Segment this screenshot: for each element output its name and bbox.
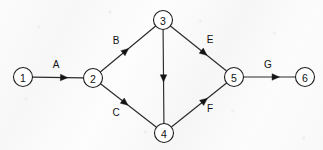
node-label: 5 (231, 72, 237, 84)
edge-line (32, 77, 83, 78)
graph-node-6[interactable]: 6 (296, 68, 315, 87)
edge-arrowhead-icon (199, 48, 207, 55)
edge-label: C (112, 107, 119, 118)
node-label: 6 (302, 72, 308, 84)
edge-arrowhead-icon (120, 98, 128, 105)
edge-label: A (53, 59, 60, 70)
edge-arrowhead-icon (160, 75, 167, 82)
graph-node-3[interactable]: 3 (154, 11, 173, 30)
edge-label: G (264, 59, 272, 70)
edge-arrowhead-icon (60, 74, 67, 81)
edge-label: B (113, 35, 120, 46)
edge-label: E (207, 34, 214, 45)
graph-node-4[interactable]: 4 (155, 124, 174, 143)
edge-label: F (207, 103, 213, 114)
network-diagram: 123456 ABCEFG (0, 0, 323, 150)
graph-node-5[interactable]: 5 (225, 68, 244, 87)
node-label: 3 (160, 15, 166, 27)
node-label: 2 (90, 73, 96, 85)
node-label: 1 (20, 72, 26, 84)
graph-canvas: 123456 ABCEFG (0, 0, 323, 150)
edge-arrowhead-icon (272, 74, 279, 81)
edge-line (171, 83, 226, 127)
graph-node-2[interactable]: 2 (84, 69, 103, 88)
edge-line (101, 84, 157, 127)
graph-node-1[interactable]: 1 (14, 68, 33, 87)
edge-line (170, 26, 226, 71)
node-label: 4 (161, 128, 167, 140)
